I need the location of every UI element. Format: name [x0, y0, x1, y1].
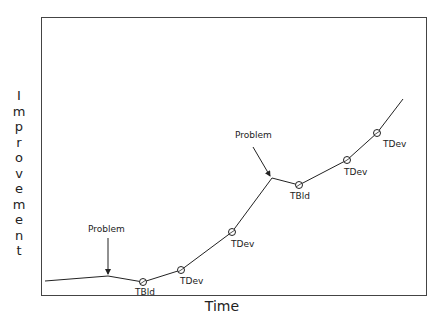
- y-axis-letter: e: [6, 181, 32, 197]
- y-axis-letter: e: [6, 212, 32, 228]
- milestone-label: TDev: [179, 276, 204, 286]
- y-axis-letter: r: [6, 135, 32, 151]
- milestone-label: TDev: [343, 167, 368, 177]
- y-axis-letter: v: [6, 166, 32, 182]
- improvement-line: [45, 99, 403, 282]
- problem-label: Problem: [88, 224, 125, 234]
- problem-arrow: [253, 147, 270, 176]
- y-axis-letter: m: [6, 104, 32, 120]
- y-axis-letter: m: [6, 197, 32, 213]
- improvement-curve: TBldTDevTDevTBldTDevTDev ProblemProblem: [0, 0, 444, 321]
- x-axis-label: Time: [0, 298, 444, 314]
- y-axis-letter: I: [6, 88, 32, 104]
- y-axis-letter: n: [6, 228, 32, 244]
- problem-annotations: ProblemProblem: [88, 130, 272, 274]
- milestone-label: TBld: [289, 191, 310, 201]
- milestone-label: TDev: [230, 239, 255, 249]
- y-axis-label: Improvement: [6, 88, 32, 259]
- y-axis-letter: o: [6, 150, 32, 166]
- y-axis-letter: t: [6, 243, 32, 259]
- milestone-label: TDev: [382, 139, 407, 149]
- problem-label: Problem: [235, 130, 272, 140]
- milestone-label: TBld: [134, 287, 155, 297]
- y-axis-letter: p: [6, 119, 32, 135]
